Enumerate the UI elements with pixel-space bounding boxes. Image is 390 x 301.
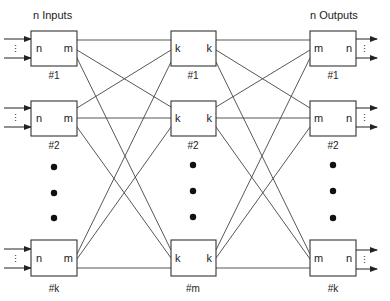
ellipsis-icon: ⋮ bbox=[11, 113, 20, 123]
output-ellipsis-dots bbox=[330, 162, 336, 221]
switch-label: #2 bbox=[48, 140, 60, 151]
port-label: k bbox=[175, 42, 181, 54]
switch-label: #m bbox=[186, 283, 200, 294]
clos-network-diagram: n Inputs n Outputs ⋮ n bbox=[0, 0, 390, 301]
switch-label: #2 bbox=[327, 140, 339, 151]
output-switch-k: m n ⋮ #k bbox=[310, 240, 377, 294]
port-label: m bbox=[314, 252, 323, 264]
ellipsis-icon: ⋮ bbox=[11, 254, 20, 264]
port-label: m bbox=[314, 42, 323, 54]
switch-label: #k bbox=[49, 283, 61, 294]
ellipsis-icon: ⋮ bbox=[360, 255, 369, 265]
output-switch-1: m n ⋮ #1 bbox=[310, 31, 377, 81]
input-switch-k: ⋮ n m #k bbox=[4, 240, 77, 294]
port-label: k bbox=[207, 42, 213, 54]
input-ellipsis-dots bbox=[51, 164, 57, 221]
switch-label: #1 bbox=[187, 70, 199, 81]
input-switch-2: ⋮ n m #2 bbox=[4, 101, 77, 151]
port-label: k bbox=[207, 252, 213, 264]
port-label: n bbox=[36, 42, 42, 54]
switch-label: #1 bbox=[48, 70, 60, 81]
switch-label: #1 bbox=[327, 70, 339, 81]
ellipsis-icon: ⋮ bbox=[360, 113, 369, 123]
port-label: k bbox=[207, 112, 213, 124]
port-label: m bbox=[314, 112, 323, 124]
middle-switch-2: k k #2 bbox=[171, 101, 216, 151]
switch-label: #2 bbox=[187, 140, 199, 151]
ellipsis-icon: ⋮ bbox=[11, 44, 20, 54]
inputs-header: n Inputs bbox=[33, 9, 73, 21]
input-to-middle-wires bbox=[77, 40, 171, 268]
port-label: m bbox=[64, 112, 73, 124]
port-label: n bbox=[36, 252, 42, 264]
middle-ellipsis-dots bbox=[190, 162, 196, 220]
output-switch-2: m n ⋮ #2 bbox=[310, 101, 377, 151]
port-label: m bbox=[64, 252, 73, 264]
port-label: k bbox=[175, 112, 181, 124]
port-label: n bbox=[36, 112, 42, 124]
ellipsis-icon: ⋮ bbox=[360, 44, 369, 54]
port-label: n bbox=[346, 42, 352, 54]
middle-switch-1: k k #1 bbox=[171, 31, 216, 81]
outputs-header: n Outputs bbox=[310, 9, 358, 21]
middle-switch-m: k k #m bbox=[171, 240, 216, 294]
switch-label: #k bbox=[328, 283, 340, 294]
middle-to-output-wires bbox=[216, 40, 310, 268]
input-switch-1: ⋮ n m #1 bbox=[4, 31, 77, 81]
port-label: n bbox=[346, 112, 352, 124]
port-label: n bbox=[346, 252, 352, 264]
port-label: m bbox=[64, 42, 73, 54]
port-label: k bbox=[175, 252, 181, 264]
